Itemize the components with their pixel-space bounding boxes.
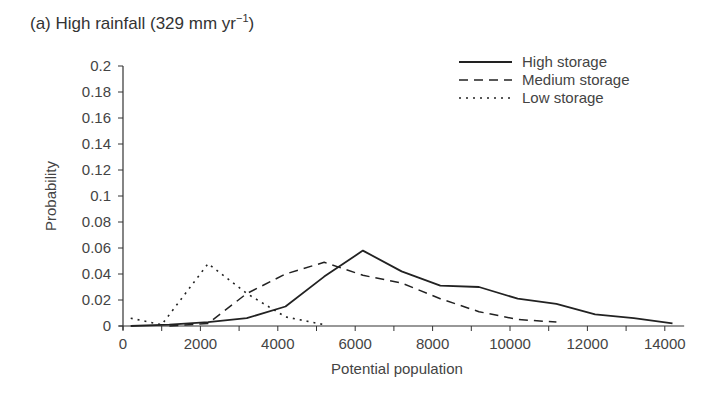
x-tick-label: 2000 (184, 335, 217, 352)
x-axis-title: Potential population (331, 360, 463, 377)
y-tick-label: 0.14 (82, 135, 111, 152)
y-tick-label: 0 (103, 317, 111, 334)
y-tick-label: 0.16 (82, 109, 111, 126)
x-tick-label: 10000 (489, 335, 531, 352)
legend-label: High storage (522, 53, 607, 70)
line-chart: 00.020.040.060.080.10.120.140.160.180.20… (0, 0, 713, 394)
y-tick-label: 0.18 (82, 83, 111, 100)
legend: High storageMedium storageLow storage (459, 53, 630, 106)
x-tick-label: 0 (119, 335, 127, 352)
x-tick-label: 14000 (644, 335, 686, 352)
x-tick-label: 12000 (567, 335, 609, 352)
legend-label: Low storage (522, 89, 604, 106)
series-lines (131, 251, 673, 326)
y-tick-label: 0.1 (90, 187, 111, 204)
series-line-high-storage (131, 251, 673, 326)
y-tick-label: 0.02 (82, 291, 111, 308)
series-line-medium-storage (169, 262, 556, 326)
x-tick-label: 6000 (339, 335, 372, 352)
series-line-low-storage (131, 264, 325, 325)
x-tick-label: 4000 (261, 335, 294, 352)
x-tick-label: 8000 (416, 335, 449, 352)
legend-label: Medium storage (522, 71, 630, 88)
y-tick-label: 0.2 (90, 57, 111, 74)
y-tick-label: 0.06 (82, 239, 111, 256)
y-tick-label: 0.04 (82, 265, 111, 282)
y-tick-label: 0.12 (82, 161, 111, 178)
y-tick-label: 0.08 (82, 213, 111, 230)
y-axis-title: Probability (42, 160, 59, 231)
